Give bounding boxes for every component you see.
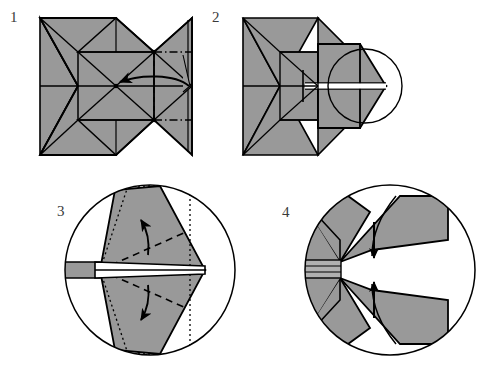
panel-1-group: 1	[10, 9, 192, 155]
layer-stack	[303, 260, 341, 278]
panel-3-content	[62, 186, 205, 354]
paper-facet	[100, 186, 205, 270]
crease-point	[152, 50, 157, 55]
panel-4-group: 4	[282, 185, 475, 355]
panel-2-group: 2	[212, 9, 402, 155]
diagram-canvas: 1	[0, 0, 485, 370]
panel-3-number: 3	[57, 203, 65, 219]
panel-4-number: 4	[282, 204, 290, 220]
crease-point	[114, 84, 119, 89]
origami-diagram-page: 1	[0, 0, 485, 370]
crease-point	[152, 118, 157, 123]
panel-1-number: 1	[10, 9, 18, 25]
panel-2-paper	[243, 18, 386, 155]
panel-2-number: 2	[212, 9, 220, 25]
panel-3-group: 3	[57, 185, 235, 355]
paper-facet	[100, 270, 205, 354]
panel-4-content	[296, 196, 448, 344]
